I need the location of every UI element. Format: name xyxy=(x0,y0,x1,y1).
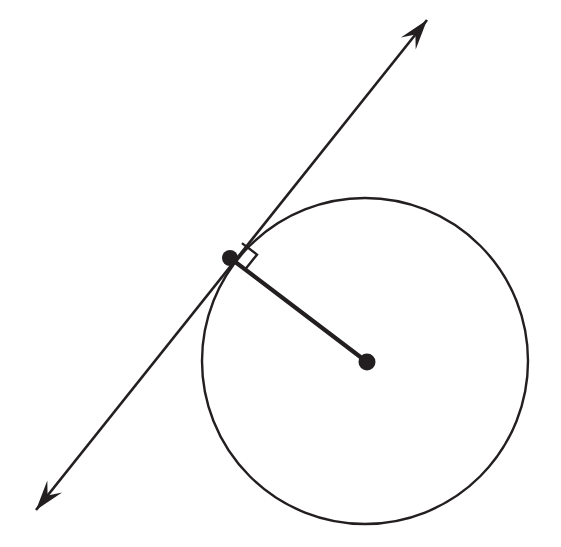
arrowhead-lower-left-icon xyxy=(36,481,62,510)
tangent-point-dot xyxy=(222,250,238,266)
radius-segment xyxy=(230,258,367,362)
arrowhead-upper-right-icon xyxy=(401,20,427,49)
center-point-dot xyxy=(359,354,376,371)
diagram-canvas: Tangent line to a circle with radius dra… xyxy=(0,0,561,547)
geometry-figure: Tangent line to a circle with radius dra… xyxy=(0,0,561,547)
